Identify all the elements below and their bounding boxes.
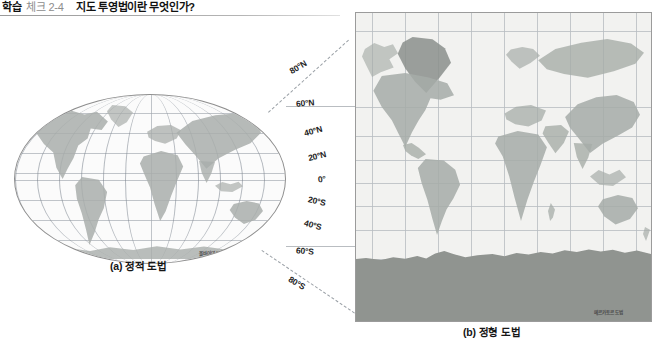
latitude-label-80s: 80°S: [287, 274, 307, 292]
landmass-india: [572, 143, 594, 169]
graticule-parallel-80n: [356, 31, 651, 32]
latitude-label-40s: 40°S: [303, 218, 323, 232]
latitude-label-20s: 20°S: [307, 194, 327, 208]
map-equal-area[interactable]: 몰바이데 도법: [14, 94, 286, 264]
landmass-australia: [598, 195, 638, 225]
landmass-asia: [562, 95, 640, 153]
landmass-south-america: [414, 159, 462, 235]
projection-credit-b: 메르카토르 도법: [594, 309, 622, 315]
caption-map-a: (a) 정적 도법: [110, 258, 167, 273]
map-a-canvas: 몰바이데 도법: [14, 94, 286, 264]
latitude-label-40n: 40°N: [303, 124, 323, 138]
latitude-label-0: 0°: [317, 174, 326, 185]
latitude-label-20n: 20°N: [307, 149, 327, 163]
map-conformal[interactable]: 메르카토르 도법: [355, 12, 652, 322]
latitude-label-60n: 60°N: [296, 97, 315, 108]
latitude-scale: 80°N 60°N 40°N 20°N 0° 20°S 40°S 60°S 80…: [288, 50, 358, 300]
graticule-parallel-40s: [356, 230, 651, 231]
landmass-arabia: [542, 125, 570, 155]
landmass-scandinavia: [506, 47, 540, 73]
landmass-canadian-arctic: [362, 43, 398, 77]
latitude-label-60s: 60°S: [296, 245, 315, 257]
projection-comparison-figure: 몰바이데 도법: [0, 0, 658, 338]
landmass-southeast-asia: [590, 169, 626, 187]
caption-map-b: (b) 정형 도법: [463, 324, 520, 338]
landmass-europe: [502, 105, 546, 135]
graticule-parallel-20n: [356, 160, 651, 161]
projection-credit-a: 몰바이데 도법: [199, 250, 224, 256]
latitude-label-80n: 80°N: [288, 58, 309, 76]
landmass-africa: [494, 131, 548, 221]
landmass-siberia: [536, 39, 644, 85]
